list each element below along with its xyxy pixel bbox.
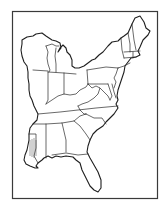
eastern-us-outline-map: [0, 0, 163, 206]
map-container: Eastern United States outline map: [0, 0, 163, 206]
landmass-outline: [21, 16, 150, 192]
